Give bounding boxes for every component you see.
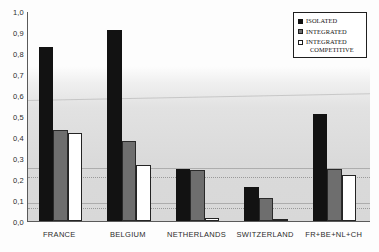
legend-item-integrated: INTEGRATED	[298, 28, 362, 36]
bar-belgium-isolated	[107, 30, 122, 221]
y-axis-tick-0-7: 0,7	[13, 71, 24, 80]
bar-netherlands-isolated	[176, 169, 191, 222]
x-axis-label-netherlands: NETHERLANDS	[167, 230, 226, 239]
legend-label: INTEGRATEDCOMPETITIVE	[306, 38, 354, 53]
bar-france-isolated	[39, 47, 54, 221]
bar-fr-be-nl-ch-integrated	[327, 169, 342, 222]
gray-square-icon	[298, 29, 303, 34]
bar-fr-be-nl-ch-competitive	[342, 175, 357, 221]
y-axis-tick-0-3: 0,3	[13, 155, 24, 164]
black-square-icon	[298, 19, 303, 24]
y-axis-tick-0-4: 0,4	[13, 134, 24, 143]
x-axis-label-fr-be-nl-ch: FR+BE+NL+CH	[305, 230, 362, 239]
chart-legend: ISOLATEDINTEGRATEDINTEGRATEDCOMPETITIVE	[293, 12, 367, 58]
x-axis-label-france: FRANCE	[43, 230, 76, 239]
y-axis-tick-0-2: 0,2	[13, 176, 24, 185]
x-axis-label-belgium: BELGIUM	[110, 230, 146, 239]
y-axis-tick-0-6: 0,6	[13, 92, 24, 101]
y-axis-tick-0-0: 0,0	[13, 218, 24, 227]
grouped-bar-chart: 0,00,10,20,30,40,50,60,70,80,91,0 FRANCE…	[0, 0, 379, 252]
y-axis-tick-0-8: 0,8	[13, 50, 24, 59]
legend-item-integrated-competitive: INTEGRATEDCOMPETITIVE	[298, 38, 362, 53]
legend-label-line2: COMPETITIVE	[306, 46, 354, 54]
bar-netherlands-integrated	[190, 170, 205, 221]
bar-belgium-competitive	[136, 165, 151, 221]
bar-netherlands-competitive	[205, 218, 220, 221]
bar-switzerland-competitive	[273, 219, 288, 221]
legend-label: ISOLATED	[306, 17, 337, 25]
bar-switzerland-isolated	[244, 187, 259, 221]
x-axis-category-labels: FRANCEBELGIUMNETHERLANDSSWITZERLANDFR+BE…	[27, 228, 370, 246]
y-axis-tick-1-0: 1,0	[13, 8, 24, 17]
y-axis-tick-0-9: 0,9	[13, 29, 24, 38]
y-axis-tick-0-1: 0,1	[13, 197, 24, 206]
bar-belgium-integrated	[122, 141, 137, 221]
legend-item-isolated: ISOLATED	[298, 17, 362, 25]
bar-switzerland-integrated	[259, 198, 274, 221]
bar-fr-be-nl-ch-isolated	[313, 114, 328, 221]
bar-france-integrated	[53, 130, 68, 221]
y-axis-tick-labels: 0,00,10,20,30,40,50,60,70,80,91,0	[0, 0, 27, 252]
x-axis-label-switzerland: SWITZERLAND	[237, 230, 294, 239]
legend-label: INTEGRATED	[306, 28, 347, 36]
bar-france-competitive	[68, 133, 83, 221]
white-square-icon	[298, 40, 303, 45]
y-axis-tick-0-5: 0,5	[13, 113, 24, 122]
